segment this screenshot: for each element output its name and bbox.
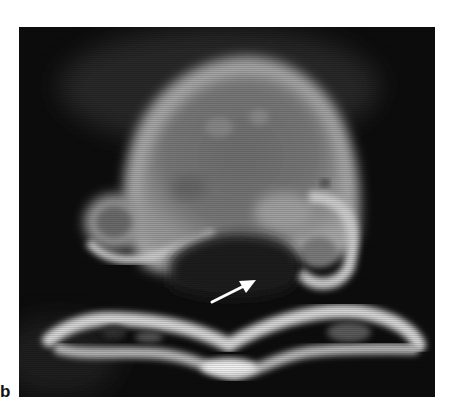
panel-label: b (0, 383, 10, 400)
ct-scan-image (19, 27, 435, 397)
ct-scan-graphic (19, 27, 435, 397)
